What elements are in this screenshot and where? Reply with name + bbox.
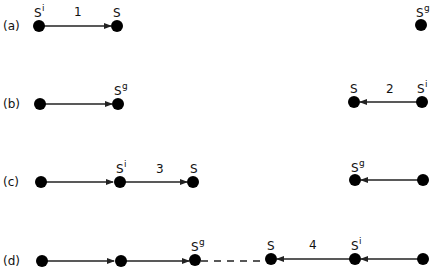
label-s: S bbox=[113, 6, 121, 20]
node-goal bbox=[415, 19, 427, 31]
sup-g: g bbox=[359, 158, 365, 168]
label-s: S bbox=[191, 240, 199, 254]
row-label-a: (a) bbox=[3, 19, 20, 33]
node bbox=[35, 176, 47, 188]
search-diagram: (a) (b) (c) (d) S i 1 S S g S g S 2 S i bbox=[0, 0, 437, 276]
label-s: S bbox=[190, 162, 198, 176]
node bbox=[417, 174, 429, 186]
node-initial bbox=[33, 20, 45, 32]
label-s: S bbox=[351, 161, 359, 175]
label-s: S bbox=[416, 6, 424, 20]
sup-g: g bbox=[199, 237, 205, 247]
node-goal bbox=[112, 98, 124, 110]
label-s: S bbox=[417, 82, 425, 96]
label-s: S bbox=[350, 82, 358, 96]
row-b: S g S 2 S i bbox=[34, 79, 428, 110]
node-initial bbox=[416, 96, 428, 108]
row-label-d: (d) bbox=[3, 254, 20, 268]
label-s: S bbox=[351, 239, 359, 253]
edge-label-4: 4 bbox=[309, 238, 317, 252]
node bbox=[115, 255, 127, 267]
row-d: S g S 4 S i bbox=[36, 236, 429, 267]
row-a: S i 1 S S g bbox=[33, 3, 430, 32]
sup-i: i bbox=[359, 236, 362, 246]
sup-i: i bbox=[425, 79, 428, 89]
row-c: S i 3 S S g bbox=[35, 158, 429, 188]
label-s: S bbox=[116, 162, 124, 176]
sup-g: g bbox=[424, 3, 430, 13]
sup-g: g bbox=[122, 81, 128, 91]
node-state bbox=[187, 176, 199, 188]
node bbox=[417, 253, 429, 265]
edge-label-3: 3 bbox=[156, 162, 164, 176]
node bbox=[36, 255, 48, 267]
label-s: S bbox=[34, 6, 42, 20]
sup-i: i bbox=[124, 159, 127, 169]
row-label-c: (c) bbox=[3, 175, 19, 189]
node-goal bbox=[189, 254, 201, 266]
node-initial bbox=[349, 253, 361, 265]
label-s: S bbox=[267, 239, 275, 253]
node bbox=[34, 98, 46, 110]
node-state bbox=[111, 20, 123, 32]
node-state bbox=[265, 253, 277, 265]
row-label-b: (b) bbox=[3, 97, 20, 111]
node-goal bbox=[349, 174, 361, 186]
label-s: S bbox=[114, 84, 122, 98]
node-state bbox=[348, 96, 360, 108]
sup-i: i bbox=[42, 3, 45, 13]
edge-label-1: 1 bbox=[74, 5, 82, 19]
node-initial bbox=[114, 176, 126, 188]
edge-label-2: 2 bbox=[386, 82, 394, 96]
